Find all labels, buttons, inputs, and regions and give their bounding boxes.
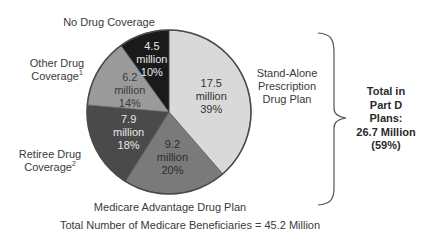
footnote-1: 1 [79, 69, 83, 76]
slice-value-label: 39% [200, 103, 222, 115]
label-medicare-advantage: Medicare Advantage Drug Plan [90, 201, 250, 214]
label-standalone-line2: Prescription [252, 80, 322, 93]
label-retiree-drug-coverage: Retiree Drug Coverage2 [14, 148, 86, 174]
total-part-d-annotation: Total in Part D Plans: 26.7 Million (59%… [348, 85, 424, 153]
slice-value-label: million [196, 90, 227, 102]
label-stand-alone-pdp: Stand-Alone Prescription Drug Plan [252, 67, 322, 106]
total-line1: Total in [348, 85, 424, 99]
label-retiree-line2: Coverage2 [14, 161, 86, 174]
label-other-line1: Other Drug [22, 57, 92, 70]
label-other-line2: Coverage1 [22, 70, 92, 83]
bracket-icon [318, 33, 346, 205]
slice-value-label: 17.5 [201, 77, 222, 89]
label-no-drug-coverage: No Drug Coverage [54, 16, 164, 29]
slice-value-label: million [136, 53, 167, 65]
slice-value-label: 7.9 [121, 113, 136, 125]
label-other-drug-coverage: Other Drug Coverage1 [22, 57, 92, 83]
footnote-2: 2 [72, 160, 76, 167]
slice-value-label: million [113, 126, 144, 138]
footer-total-beneficiaries: Total Number of Medicare Beneficiaries =… [40, 219, 340, 232]
slice-value-label: 20% [161, 164, 183, 176]
slice-value-label: 9.2 [165, 138, 180, 150]
label-standalone-line3: Drug Plan [252, 93, 322, 106]
slice-value-label: 6.2 [122, 71, 137, 83]
slice-value-label: million [157, 151, 188, 163]
total-line5: (59%) [348, 139, 424, 153]
slice-value-label: 14% [119, 97, 141, 109]
slice-value-label: 10% [141, 66, 163, 78]
label-retiree-line1: Retiree Drug [14, 148, 86, 161]
slice-value-label: 18% [118, 139, 140, 151]
label-standalone-line1: Stand-Alone [252, 67, 322, 80]
total-line4: 26.7 Million [348, 126, 424, 140]
total-line3: Plans: [348, 112, 424, 126]
slice-value-label: 4.5 [144, 40, 159, 52]
total-line2: Part D [348, 99, 424, 113]
slice-value-label: million [114, 84, 145, 96]
